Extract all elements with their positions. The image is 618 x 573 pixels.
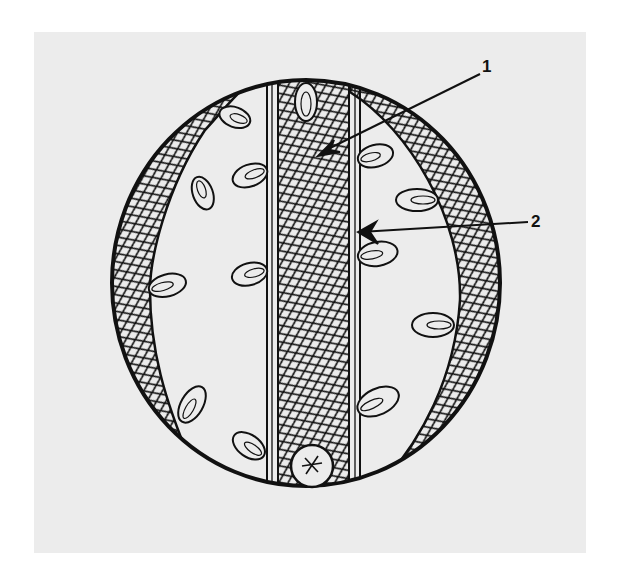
central-band (278, 78, 349, 488)
petal-icon (412, 313, 454, 337)
diagram-figure (0, 0, 618, 573)
petal-icon (396, 189, 438, 211)
label-1: 1 (482, 58, 491, 75)
label-2: 2 (531, 213, 540, 230)
petal-icon (295, 83, 317, 121)
basal-body (291, 445, 333, 487)
